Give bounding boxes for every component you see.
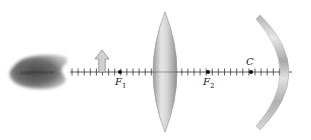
lips-object xyxy=(10,55,67,89)
label-f1: F1 xyxy=(115,77,126,90)
point-f1-dot xyxy=(118,70,122,74)
diagram-canvas xyxy=(0,0,311,140)
point-f2-dot xyxy=(206,70,210,74)
label-f2: F2 xyxy=(203,77,214,90)
object-arrow-icon xyxy=(95,50,109,72)
optics-diagram: F1 F2 C xyxy=(0,0,311,140)
point-c-dot xyxy=(249,70,253,74)
label-c: C xyxy=(246,57,254,70)
